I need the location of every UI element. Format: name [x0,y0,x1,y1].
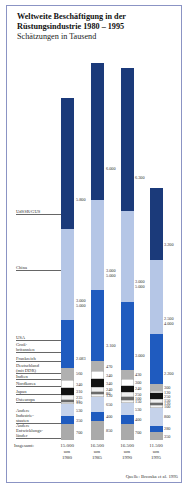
value-label: 530 [76,408,82,413]
value-label: 400 [135,417,141,422]
leader-line [16,402,61,403]
leader-line [16,340,61,341]
segment-gb [61,368,74,381]
segment-ae [61,424,74,440]
value-label: 650 [106,402,112,407]
segment-fr [61,380,74,388]
segment-ussr [121,68,134,211]
segment-fr [150,391,163,394]
segment-oe [150,408,163,426]
segment-jp [61,402,74,404]
bar-1980 [61,98,74,440]
value-label: 530 [135,407,141,412]
leader-line [16,361,61,362]
value-label: 340 [106,381,112,386]
segment-de [150,393,163,399]
segment-in [150,399,163,402]
chart-title: Weltweite Beschäftigung in der Rüstungsi… [17,12,126,32]
segment-ussr [61,98,74,230]
value-label: 150 [164,398,170,403]
segment-nk [61,400,74,401]
segment-ae [91,421,104,440]
segment-china [150,260,163,334]
source-note: Quelle: Brzoska et al. 1995 [126,474,178,479]
value-label: 3.200 [164,242,174,247]
leader-line [16,352,61,353]
segment-usa [91,290,104,360]
total-1980: 15.000 um 1980 [54,443,80,461]
value-label: 700 [76,430,82,435]
total-1985: 16.500 um 1985 [84,443,110,461]
value-label: 3.100 [106,343,116,348]
segment-fr [121,379,134,386]
value-label: 2.083 [76,356,86,361]
value-label: 3.000 [135,353,145,358]
segment-oe [61,404,74,416]
segment-ai [121,415,134,424]
bar-1985 [91,63,104,440]
value-label: 400 [106,414,112,419]
segment-usa [121,302,134,370]
value-label: 2.200 [164,371,174,376]
value-label: 3.000 5.000 [106,268,116,278]
segment-de [91,379,104,387]
total-label: Insgesamt: [14,443,34,448]
value-label: 560 [76,371,82,376]
value-label: 120 [164,390,170,395]
segment-ussr [91,63,104,199]
value-label: 350 [164,434,170,439]
segment-nk [91,392,104,394]
value-label: 800 [164,414,170,419]
leader-line [16,270,61,271]
segment-oe [91,397,104,412]
segment-china [91,200,104,291]
value-label: 6.000 [106,166,116,171]
value-label: 430 [135,372,141,377]
segment-gb [150,384,163,391]
total-1990: 16.500 um 1990 [114,443,140,461]
leader-line [16,438,61,439]
segment-in [91,387,104,392]
value-label: 280 [164,426,170,431]
legend-label-ae: Andere Entwicklungs- länder [16,423,43,438]
segment-nk [150,403,163,406]
legend-label-de: Deutschland (mit DDR) [16,363,39,373]
segment-ae [121,424,134,440]
bar-1995 [150,188,163,440]
value-label: 240 [106,387,112,392]
segment-jp [150,405,163,407]
total-1995: 11.500 um 1995 [143,443,169,461]
segment-ai [91,412,104,421]
segment-jp [91,394,104,397]
value-label: 300 [164,385,170,390]
value-label: 700 [135,430,141,435]
value-label: 850 [106,428,112,433]
segment-china [61,229,74,320]
segment-china [121,211,134,302]
segment-in [121,392,134,398]
value-label: 250 [135,392,141,397]
leader-line [16,394,61,395]
value-label: 310 [76,389,82,394]
segment-fr [91,371,104,379]
segment-in [61,395,74,400]
value-label: 340 [106,373,112,378]
segment-de [61,388,74,395]
segment-nk [121,397,134,399]
segment-ussr [150,188,163,261]
value-label: 3.000 5.000 [135,279,145,289]
segment-ae [150,432,163,440]
segment-ai [150,426,163,432]
segment-usa [61,320,74,367]
legend-label-ai: Andere Industrie- staaten [16,408,34,423]
segment-gb [91,361,104,372]
legend-label-gb: Groß- britannien [16,342,35,352]
segment-de [121,386,134,391]
segment-ai [61,416,74,424]
segment-oe [121,403,134,415]
leader-line [16,214,61,215]
value-label: 350 [76,418,82,423]
value-label: 300 [135,380,141,385]
value-label: 470 [106,364,112,369]
value-label: 6.300 [135,175,145,180]
